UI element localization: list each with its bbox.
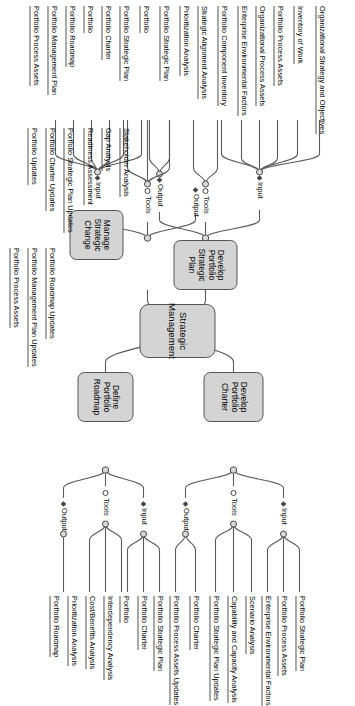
process-node-label: Define Portfolio Roadmap (91, 376, 120, 418)
leaf-item: Portfolio Updates (27, 128, 37, 185)
process-node-label: Develop Portfolio Charter (219, 376, 248, 418)
dot-marker-icon (144, 188, 150, 194)
diamond-marker-icon (94, 175, 100, 181)
leaf-item: Scenario Analysis (245, 596, 255, 654)
category-label-output-dpc: Output (181, 502, 189, 531)
process-node-manage-strategic-change[interactable]: Manage Strategic Change (69, 210, 123, 260)
category-label-output-dpr: Output (59, 502, 67, 531)
leaf-item: Portfolio Roadmap Updates (45, 248, 55, 339)
leaf-item: Portfolio (83, 6, 93, 33)
category-label-input-dpc: Input (279, 502, 287, 525)
leaf-item: Interdependency Analysis (103, 596, 113, 680)
leaf-item: Portfolio Strategic Plan Updates (63, 128, 73, 233)
leaf-item: Portfolio Roadmap (65, 6, 75, 67)
leaf-item: Capability and Capacity Analysis (227, 596, 237, 703)
leaf-item: Portfolio Strategic Plan (119, 6, 129, 81)
category-label-input-dpsp: Input (255, 176, 263, 199)
category-label-tools-dpr: Tools (101, 490, 109, 516)
leaf-item: Portfolio Process Assets (9, 248, 19, 328)
process-node-develop-portfolio-charter[interactable]: Develop Portfolio Charter (203, 372, 263, 422)
leaf-item: Portfolio Roadmap (49, 596, 59, 657)
center-node-label: Strategic Management (166, 303, 188, 359)
diamond-marker-icon (280, 501, 286, 507)
leaf-item: Inventory of Work (293, 6, 303, 64)
leaf-item: Prioritization Analysis (179, 6, 189, 76)
leaf-item: Portfolio Strategic Plan (153, 596, 163, 671)
dot-marker-icon (230, 490, 236, 496)
leaf-item: Organizational Strategy and Objectives (315, 6, 325, 134)
leaf-item: Portfolio Component Inventory (217, 6, 227, 106)
leaf-item: Portfolio Strategic Plan (295, 596, 305, 671)
leaf-item: Prioritization Analysis (67, 596, 77, 666)
leaf-item: Portfolio Strategic Plan (159, 6, 169, 81)
leaf-item: Strategic Alignment Analysis (197, 6, 207, 99)
leaf-item: Portfolio Process Assets (273, 6, 283, 86)
diamond-marker-icon (192, 187, 198, 193)
leaf-item: Stakeholder Analysis (119, 128, 129, 197)
leaf-item: Readiness Assessment (83, 128, 93, 205)
process-node-label: Manage Strategic Change (82, 214, 111, 256)
leaf-item: Enterprise Environmental Factors (237, 6, 247, 116)
category-label-output-dpsp: Output (155, 178, 163, 207)
leaf-item: Portfolio Process Assets Updates (169, 596, 179, 705)
process-node-develop-portfolio-strategic-plan[interactable]: Develop Portfolio Strategic Plan (173, 240, 237, 290)
category-label-output-msc: Output (191, 188, 199, 217)
leaf-item: Portfolio Management Plan Updates (27, 248, 37, 367)
leaf-item: Portfolio Charter (189, 596, 199, 650)
category-label-input-dpr: Input (139, 502, 147, 525)
leaf-item: Portfolio Management Plan (47, 6, 57, 95)
leaf-item: Portfolio (139, 6, 149, 33)
leaf-item: Enterprise Environmental Factors (261, 596, 271, 706)
diamond-marker-icon (140, 501, 146, 507)
leaf-item: Gap Analysis (101, 128, 111, 171)
process-node-label: Develop Portfolio Strategic Plan (186, 244, 224, 286)
leaf-item: Portfolio Process Assets (277, 596, 287, 676)
diamond-marker-icon (156, 177, 162, 183)
leaf-item: Portfolio Charter (101, 6, 111, 60)
leaf-item: Portfolio Strategic Plan Updates (209, 596, 219, 701)
leaf-item: Portfolio Charter (137, 596, 147, 650)
dot-marker-icon (202, 188, 208, 194)
category-label-tools-dpc: Tools (229, 490, 237, 516)
leaf-item: Cost/Benefits Analysis (85, 596, 95, 669)
center-node-strategic-management[interactable]: Strategic Management (139, 304, 215, 358)
dot-marker-icon (102, 490, 108, 496)
leaf-item: Portfolio Process Assets (29, 6, 39, 86)
process-node-define-portfolio-roadmap[interactable]: Define Portfolio Roadmap (77, 372, 133, 422)
leaf-item: Portfolio Charter Updates (45, 128, 55, 211)
diamond-marker-icon (182, 501, 188, 507)
leaf-item: Portfolio (119, 596, 129, 623)
category-label-tools-dpsp: Tools (201, 188, 209, 214)
category-label-tools-msc: Tools (143, 188, 151, 214)
leaf-item: Organizational Process Assets (255, 6, 265, 106)
diamond-marker-icon (256, 175, 262, 181)
diamond-marker-icon (60, 501, 66, 507)
